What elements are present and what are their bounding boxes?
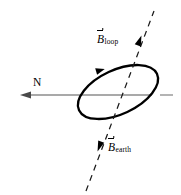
b-loop-label: Bloop (97, 34, 118, 46)
b-loop-subscript: loop (105, 37, 119, 46)
b-earth-subscript: earth (116, 145, 132, 154)
diagram-canvas (0, 0, 181, 195)
b-earth-symbol: B (108, 141, 116, 153)
b-earth-label: Bearth (108, 142, 131, 154)
b-loop-arrowhead-icon (135, 34, 145, 46)
current-loop-ellipse (70, 54, 167, 130)
north-label: N (33, 77, 41, 89)
b-loop-symbol: B (97, 33, 105, 45)
north-arrowhead-icon (20, 92, 31, 99)
bfield-loop-diagram: N Bloop Bearth (0, 0, 181, 195)
